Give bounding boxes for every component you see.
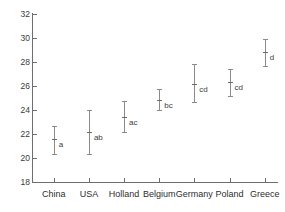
x-axis-tick-label: Belgium [143,190,176,199]
mean-marker [87,132,92,133]
y-axis-tick-label: 28 [0,58,30,67]
significance-letter: bc [164,102,172,110]
y-axis-tick [33,62,37,63]
y-axis-tick-label: 30 [0,34,30,43]
x-axis-line [32,182,278,183]
x-axis-tick-label: USA [80,190,99,199]
significance-letter: a [59,141,63,149]
error-bar-cap [157,89,162,90]
error-bar-cap [192,102,197,103]
error-bar-cap [263,66,268,67]
y-axis-tick-label: 24 [0,106,30,115]
significance-letter: cd [235,84,243,92]
chart-container: 1820222426283032 aabacbccdcdd ChinaUSAHo… [0,0,285,212]
error-bar-cap [52,154,57,155]
mean-marker [228,82,233,83]
error-bar-cap [87,154,92,155]
x-axis-tick [54,178,55,182]
y-axis-tick [33,134,37,135]
mean-marker [157,100,162,101]
error-bar-cap [122,132,127,133]
y-axis-tick [33,182,37,183]
error-bar-cap [52,126,57,127]
x-axis-tick-label: Holland [109,190,140,199]
y-axis-tick-label: 20 [0,154,30,163]
error-bar-cap [228,69,233,70]
significance-letter: cd [199,86,207,94]
x-axis-tick-label: Poland [215,190,243,199]
y-axis-tick-label: 26 [0,82,30,91]
y-axis-tick-label: 18 [0,178,30,187]
x-axis-tick [230,178,231,182]
y-axis-tick [33,38,37,39]
x-axis-tick [124,178,125,182]
mean-marker [263,52,268,53]
y-axis-tick [33,110,37,111]
significance-letter: d [270,54,274,62]
y-axis-tick-label: 32 [0,10,30,19]
significance-letter: ac [129,119,137,127]
x-axis-tick [159,178,160,182]
x-axis-tick [89,178,90,182]
x-axis-tick-label: Greece [250,190,280,199]
y-axis-tick [33,158,37,159]
x-axis-tick-label: China [42,190,66,199]
x-axis-tick [265,178,266,182]
mean-marker [192,84,197,85]
error-bar-cap [157,110,162,111]
significance-letter: ab [94,134,103,142]
error-bar-cap [228,96,233,97]
error-bar-cap [87,110,92,111]
y-axis-tick-label: 22 [0,130,30,139]
mean-marker [122,117,127,118]
x-axis-tick [194,178,195,182]
y-axis-tick [33,14,37,15]
x-axis-tick-label: Germany [176,190,213,199]
error-bar-cap [192,64,197,65]
error-bar-cap [122,101,127,102]
mean-marker [52,139,57,140]
error-bar-cap [263,39,268,40]
y-axis-tick [33,86,37,87]
